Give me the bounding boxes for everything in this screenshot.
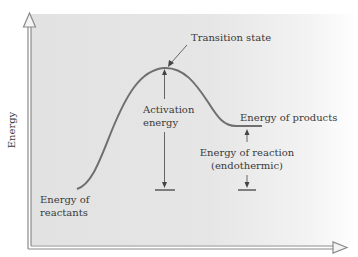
energy-of-reaction-label-line1: Energy of reaction (200, 147, 295, 158)
energy-of-reaction-label-line2: (endothermic) (211, 160, 283, 171)
y-axis-label: Energy (6, 111, 17, 148)
energy-of-reactants-label-line2: reactants (40, 207, 88, 218)
transition-state-label: Transition state (191, 32, 271, 43)
activation-energy-label-line1: Activation (142, 104, 195, 115)
energy-diagram: Energy Transition state Activation energ… (0, 0, 358, 257)
activation-energy-label-line2: energy (143, 117, 178, 128)
energy-of-reactants-label-line1: Energy of (40, 194, 91, 205)
energy-of-products-label: Energy of products (240, 112, 337, 123)
